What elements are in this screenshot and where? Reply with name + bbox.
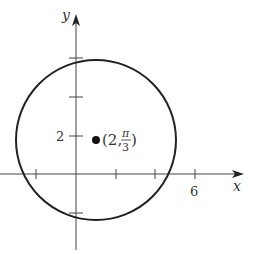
center-point xyxy=(92,136,100,144)
x-tick-label-6: 6 xyxy=(190,184,198,199)
x-axis-label: x xyxy=(233,178,241,194)
point-label-3: 3 xyxy=(122,141,129,154)
polar-circle-diagram: y x 6 2 (2, π 3 ) xyxy=(0,0,254,255)
point-label-prefix: (2, xyxy=(102,131,122,149)
point-label-suffix: ) xyxy=(131,131,137,149)
point-label-pi: π xyxy=(121,127,130,140)
y-tick-label-2: 2 xyxy=(56,129,64,144)
y-axis-label: y xyxy=(61,7,71,23)
